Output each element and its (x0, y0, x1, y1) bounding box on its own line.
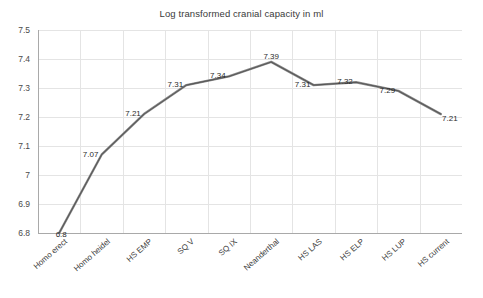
data-point-label: 7.07 (83, 149, 99, 158)
x-tick-label: HS current (416, 237, 451, 269)
y-tick-label: 7.4 (18, 54, 30, 64)
x-tick-label: Neanderthal (242, 237, 281, 272)
x-tick-label: SQ V (176, 237, 196, 256)
data-point-label: 7.31 (295, 80, 311, 89)
y-tick-label: 7.1 (18, 141, 30, 151)
x-tick-label: SQ IX (217, 237, 239, 258)
data-point-label: 7.32 (337, 77, 353, 86)
data-point-label: 7.29 (380, 85, 396, 94)
data-point-label: 7.34 (210, 71, 226, 80)
x-tick-label: Homo erect (32, 237, 69, 271)
data-point-label: 7.31 (168, 80, 184, 89)
x-tick-label: HS ELP (339, 237, 366, 262)
x-tick-label: HS LAS (296, 237, 323, 262)
y-axis: 6.86.977.17.27.37.47.5 (0, 30, 34, 233)
x-axis: Homo erectHomo heidelHS EMPSQ VSQ IXNean… (0, 233, 483, 298)
data-point-label: 7.21 (442, 114, 458, 123)
x-tick-label: HS EMP (125, 237, 154, 264)
data-point-label: 7.39 (263, 51, 279, 60)
chart-title: Log transformed cranial capacity in ml (0, 8, 483, 19)
data-point-label: 7.21 (125, 109, 141, 118)
data-label-layer: 6.87.077.217.317.347.397.317.327.297.21 (38, 30, 462, 233)
x-tick-label: HS LUP (381, 237, 409, 263)
y-tick-label: 7 (25, 170, 30, 180)
y-tick-label: 7.3 (18, 83, 30, 93)
x-tick-label: Homo heidel (72, 237, 112, 273)
y-tick-label: 7.2 (18, 112, 30, 122)
chart-figure: Log transformed cranial capacity in ml 6… (0, 0, 483, 298)
y-tick-label: 6.9 (18, 199, 30, 209)
y-tick-label: 7.5 (18, 25, 30, 35)
